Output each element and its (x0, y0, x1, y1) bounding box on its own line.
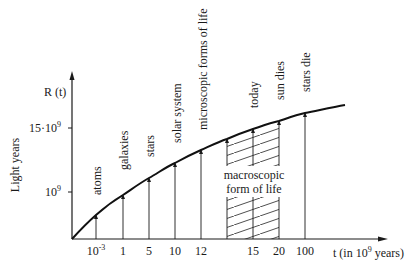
x-tick-labels: 10-3 1 5 10 12 15 20 100 (87, 243, 314, 258)
x-axis-arrow-icon (378, 237, 388, 242)
hatch-label-line2: form of life (226, 182, 281, 196)
event-label-sun-dies: sun dies (273, 61, 287, 100)
x-axis-label: t (in 109 years) (333, 245, 404, 260)
y-axis (68, 71, 75, 239)
x-tick-label: 100 (296, 244, 314, 258)
x-tick-label: 10-3 (87, 243, 106, 258)
event-label-galaxies: galaxies (117, 130, 131, 170)
event-label-atoms: atoms (90, 166, 104, 195)
y-axis-title: R (t) (44, 85, 66, 99)
y-tick-label: 15·109 (29, 120, 61, 135)
y-tick-label: 109 (45, 184, 61, 199)
event-label-solar-system: solar system (170, 83, 184, 143)
x-tick-label: 15 (247, 244, 259, 258)
x-tick-label: 12 (195, 244, 207, 258)
x-tick-label: 5 (146, 244, 152, 258)
y-axis-arrow-icon (70, 71, 75, 80)
event-label-stars: stars (143, 135, 157, 157)
event-label-today: today (247, 81, 261, 108)
y-axis-label: Light years (8, 138, 22, 193)
event-label-stars-die: stars die (299, 52, 313, 92)
x-tick-label: 10 (169, 244, 181, 258)
event-label-microscopic-life: microscopic forms of life (196, 8, 210, 130)
x-tick-label: 20 (273, 244, 285, 258)
universe-timeline-diagram: R (t) Light years 15·109 109 10-3 1 5 10… (0, 0, 417, 272)
x-tick-label: 1 (120, 244, 126, 258)
hatch-label-line1: macroscopic (224, 168, 285, 182)
